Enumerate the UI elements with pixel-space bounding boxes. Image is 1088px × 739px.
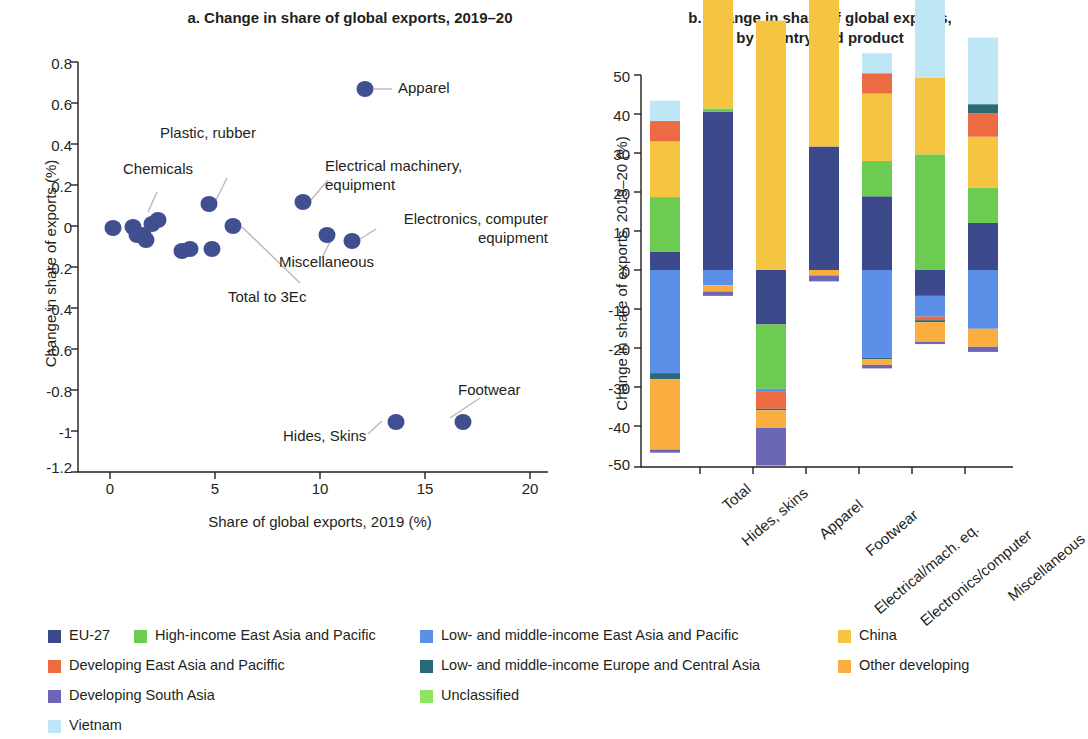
bar-segment bbox=[756, 270, 786, 324]
bar-segment bbox=[809, 147, 839, 270]
bar-segment bbox=[703, 285, 733, 291]
bar-segment bbox=[809, 270, 839, 275]
legend-label-eu-27: EU-27 bbox=[69, 628, 110, 644]
legend-item-high-income-east-asia-pacific: High-income East Asia and Pacific bbox=[134, 628, 376, 644]
legend-item-vietnam: Vietnam bbox=[48, 718, 122, 734]
bar-segment bbox=[862, 365, 892, 369]
bar-segment bbox=[915, 322, 945, 342]
legend-swatch-icon-vietnam bbox=[48, 720, 61, 733]
legend-label-vietnam: Vietnam bbox=[69, 718, 122, 734]
legend-label-other-developing: Other developing bbox=[859, 658, 969, 674]
bar-segment bbox=[862, 94, 892, 161]
bar-segment bbox=[862, 196, 892, 270]
bar-segment bbox=[650, 141, 680, 197]
legend-swatch-icon-developing-east-asia-pacific bbox=[48, 660, 61, 673]
legend-label-developing-east-asia-pacific: Developing East Asia and Paciffic bbox=[69, 658, 285, 674]
legend-item-china: China bbox=[838, 628, 897, 644]
legend-label-developing-south-asia: Developing South Asia bbox=[69, 688, 215, 704]
stacked-bars bbox=[650, 0, 998, 466]
bar-segment bbox=[650, 450, 680, 453]
bar-segment bbox=[915, 320, 945, 322]
bar-segment bbox=[756, 428, 786, 466]
bar-segment bbox=[968, 188, 998, 223]
bar-segment bbox=[650, 121, 680, 141]
legend-swatch-icon-high-income-east-asia-pacific bbox=[134, 630, 147, 643]
legend-swatch-icon-lmi-europe-central-asia bbox=[420, 660, 433, 673]
legend-label-lmi-east-asia-pacific: Low- and middle-income East Asia and Pac… bbox=[441, 628, 738, 644]
legend-swatch-icon-unclassified bbox=[420, 690, 433, 703]
bar-segment bbox=[862, 53, 892, 73]
legend-item-unclassified: Unclassified bbox=[420, 688, 519, 704]
bar-segment bbox=[650, 270, 680, 373]
legend-swatch-icon-eu-27 bbox=[48, 630, 61, 643]
bar-segment bbox=[968, 113, 998, 137]
bar-segment bbox=[968, 270, 998, 329]
bar-segment bbox=[968, 223, 998, 270]
legend-item-eu-27: EU-27 bbox=[48, 628, 110, 644]
bar-segment bbox=[756, 409, 786, 411]
bar-segment bbox=[809, 275, 839, 281]
bar-segment bbox=[915, 78, 945, 154]
legend-swatch-icon-developing-south-asia bbox=[48, 690, 61, 703]
bar-segment bbox=[703, 292, 733, 296]
bar-segment bbox=[968, 347, 998, 352]
bar-segment bbox=[968, 104, 998, 113]
bar-segment bbox=[862, 161, 892, 196]
legend-item-developing-east-asia-pacific: Developing East Asia and Paciffic bbox=[48, 658, 285, 674]
bar-segment bbox=[915, 342, 945, 344]
bar-segment bbox=[703, 0, 733, 108]
bar-segment bbox=[703, 270, 733, 285]
legend-swatch-icon-china bbox=[838, 630, 851, 643]
bar-segment bbox=[809, 0, 839, 147]
bar-segment bbox=[915, 154, 945, 270]
bar-segment bbox=[650, 373, 680, 379]
legend-item-developing-south-asia: Developing South Asia bbox=[48, 688, 215, 704]
legend-label-unclassified: Unclassified bbox=[441, 688, 519, 704]
bar-segment bbox=[756, 324, 786, 388]
bar-segment bbox=[968, 38, 998, 105]
bar-segment bbox=[915, 296, 945, 317]
bar-segment bbox=[650, 101, 680, 121]
bar-segment bbox=[915, 317, 945, 321]
bar-segment bbox=[968, 329, 998, 347]
bar-segment bbox=[756, 389, 786, 392]
legend-item-lmi-europe-central-asia: Low- and middle-income Europe and Centra… bbox=[420, 658, 760, 674]
bar-segment bbox=[862, 359, 892, 364]
bar-segment bbox=[756, 392, 786, 409]
legend-swatch-icon-other-developing bbox=[838, 660, 851, 673]
bar-segment bbox=[968, 137, 998, 188]
legend: EU-27 High-income East Asia and Pacific … bbox=[48, 628, 1008, 733]
legend-label-lmi-europe-central-asia: Low- and middle-income Europe and Centra… bbox=[441, 658, 760, 674]
legend-item-lmi-east-asia-pacific: Low- and middle-income East Asia and Pac… bbox=[420, 628, 738, 644]
bar-segment bbox=[862, 73, 892, 93]
bar-segment bbox=[650, 252, 680, 270]
legend-label-china: China bbox=[859, 628, 897, 644]
bar-segment bbox=[703, 108, 733, 112]
bar-segment bbox=[862, 358, 892, 360]
bar-segment bbox=[915, 270, 945, 296]
bar-segment bbox=[703, 112, 733, 270]
bar-segment bbox=[862, 270, 892, 358]
bar-segment bbox=[650, 379, 680, 450]
legend-swatch-icon-lmi-east-asia-pacific bbox=[420, 630, 433, 643]
legend-item-other-developing: Other developing bbox=[838, 658, 969, 674]
legend-label-high-income-east-asia-pacific: High-income East Asia and Pacific bbox=[155, 628, 376, 644]
bar-segment bbox=[756, 21, 786, 270]
bar-segment bbox=[915, 0, 945, 78]
bar-segment bbox=[650, 197, 680, 252]
bar-segment bbox=[756, 410, 786, 428]
